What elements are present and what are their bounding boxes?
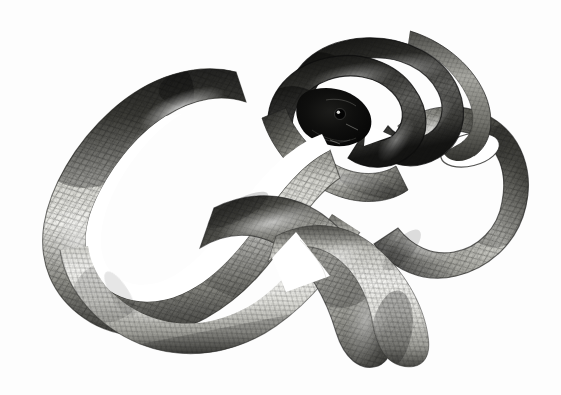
eye — [335, 109, 346, 120]
eye-catchlight — [337, 111, 340, 114]
snake-photograph: A large snake coiled into overlapping lo… — [0, 0, 561, 395]
snake-illustration — [0, 0, 561, 395]
